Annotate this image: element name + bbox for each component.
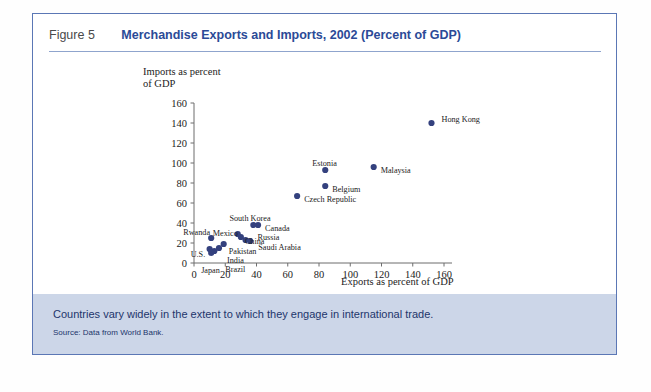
data-point-label: India — [227, 256, 244, 265]
figure-frame: Figure 5 Merchandise Exports and Imports… — [32, 13, 617, 355]
x-axis-title: Exports as percent of GDP — [341, 276, 454, 288]
data-point-label: Mexico — [213, 229, 238, 238]
data-point-label: Malaysia — [381, 166, 411, 175]
y-tick-label: 100 — [171, 158, 187, 169]
data-point-label: Belgium — [332, 185, 361, 194]
y-tick-label: 60 — [177, 198, 188, 209]
x-tick-label: 80 — [314, 269, 325, 280]
data-point-label: Pakistan — [229, 247, 257, 256]
y-tick-label: 120 — [171, 138, 187, 149]
figure-page: Figure 5 Merchandise Exports and Imports… — [0, 0, 651, 392]
x-tick-label: 60 — [283, 269, 294, 280]
data-point-label: Estonia — [312, 159, 337, 168]
data-markers — [207, 120, 435, 256]
data-point-label: Canada — [265, 224, 290, 233]
data-point-label: Czech Republic — [304, 195, 356, 204]
data-point[interactable] — [322, 183, 328, 189]
footer-source: Source: Data from World Bank. — [53, 328, 164, 337]
data-point-labels: Hong KongMalaysiaEstoniaBelgiumCzech Rep… — [183, 115, 480, 275]
chart-svg: 0204060801001201401600204060801001201401… — [33, 14, 618, 304]
y-tick-label: 140 — [171, 118, 187, 129]
data-point-label: Brazil — [225, 265, 246, 274]
data-point-label: Japan — [201, 266, 220, 275]
data-point-label: Saudi Arabia — [258, 243, 301, 252]
figure-footer: Countries vary widely in the extent to w… — [33, 294, 616, 354]
data-point[interactable] — [207, 246, 213, 252]
y-tick-label: 80 — [177, 178, 188, 189]
footer-caption: Countries vary widely in the extent to w… — [53, 308, 433, 320]
data-point-label: Rwanda — [183, 228, 210, 237]
data-point[interactable] — [428, 120, 434, 126]
data-point-label: South Korea — [229, 214, 271, 223]
data-point-label: U.S. — [191, 250, 206, 259]
data-point[interactable] — [371, 164, 377, 170]
data-point[interactable] — [221, 241, 227, 247]
data-point-label: Hong Kong — [442, 115, 480, 124]
data-point[interactable] — [294, 193, 300, 199]
x-tick-label: 40 — [251, 269, 262, 280]
chart-axes — [191, 103, 453, 267]
y-axis-title: Imports as percentof GDP — [143, 66, 221, 90]
data-point-label: China — [245, 237, 265, 246]
y-tick-label: 20 — [177, 238, 188, 249]
y-tick-label: 160 — [171, 98, 187, 109]
x-tick-label: 0 — [191, 269, 196, 280]
scatter-plot: 0204060801001201401600204060801001201401… — [33, 14, 618, 304]
y-axis-title-line-1: Imports as percent — [143, 66, 221, 78]
y-tick-label: 0 — [182, 258, 187, 269]
y-axis-title-line-2: of GDP — [143, 78, 221, 90]
